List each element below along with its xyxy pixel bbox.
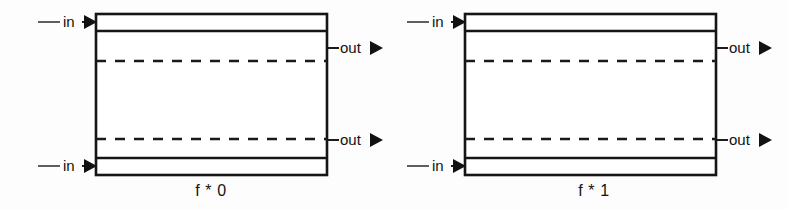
arrow-right-icon-output-top xyxy=(759,41,772,55)
output-top-label: out xyxy=(729,39,751,56)
block-body xyxy=(96,14,327,175)
block-body xyxy=(465,14,716,175)
arrow-right-icon-output-bottom xyxy=(759,133,772,147)
output-top-label: out xyxy=(340,39,362,56)
arrow-right-icon-output-bottom xyxy=(370,133,383,147)
figure-root: in in out out f * 0 xyxy=(0,0,788,210)
input-top-label: in xyxy=(63,13,75,30)
output-bottom-label: out xyxy=(340,131,362,148)
diagram-caption: f * 1 xyxy=(578,182,609,199)
input-top-label: in xyxy=(432,13,444,30)
diagram-caption: f * 0 xyxy=(195,182,226,199)
arrow-right-icon-output-top xyxy=(370,41,383,55)
input-bottom-label: in xyxy=(63,157,75,174)
diagram-f-star-1: in in out out f * 1 xyxy=(394,0,788,210)
input-bottom-label: in xyxy=(432,157,444,174)
output-bottom-label: out xyxy=(729,131,751,148)
diagram-f-star-0: in in out out f * 0 xyxy=(0,0,394,210)
